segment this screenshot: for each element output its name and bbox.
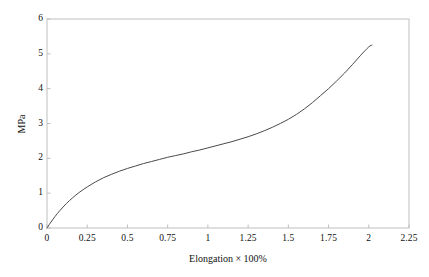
y-axis-title: MPa bbox=[17, 115, 27, 134]
y-tick-label: 0 bbox=[31, 223, 43, 233]
x-axis-ticks bbox=[47, 225, 409, 229]
x-tick-label: 0.75 bbox=[159, 234, 176, 244]
plot-frame bbox=[47, 19, 409, 228]
y-tick-label: 3 bbox=[31, 119, 43, 129]
y-tick-label: 2 bbox=[31, 154, 43, 164]
x-tick-label: 0 bbox=[45, 234, 50, 244]
x-tick-label: 0.5 bbox=[121, 234, 133, 244]
x-tick-label: 1 bbox=[205, 234, 210, 244]
x-axis-title: Elongation × 100% bbox=[189, 254, 267, 264]
y-tick-label: 1 bbox=[31, 188, 43, 198]
y-axis-ticks bbox=[47, 19, 51, 228]
x-tick-label: 2.25 bbox=[400, 234, 417, 244]
y-tick-label: 4 bbox=[31, 84, 43, 94]
x-tick-label: 1.25 bbox=[240, 234, 257, 244]
y-tick-label: 6 bbox=[31, 14, 43, 24]
stress-strain-plot bbox=[0, 0, 429, 277]
series-line-stress-strain bbox=[47, 45, 372, 228]
data-series-group bbox=[47, 45, 372, 228]
y-tick-label: 5 bbox=[31, 49, 43, 59]
chart-figure: 00.250.50.7511.251.51.7522.25 0123456 El… bbox=[0, 0, 429, 277]
x-tick-label: 1.75 bbox=[320, 234, 337, 244]
x-tick-label: 1.5 bbox=[282, 234, 294, 244]
x-tick-label: 2 bbox=[366, 234, 371, 244]
plot-frame-rect bbox=[47, 19, 409, 228]
x-tick-label: 0.25 bbox=[79, 234, 96, 244]
